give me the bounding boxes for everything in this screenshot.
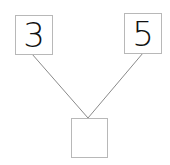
connector-left (32, 54, 88, 118)
connector-right (88, 53, 143, 118)
whole-box[interactable] (71, 118, 108, 158)
part-box-left: 3 (15, 15, 53, 55)
part-right-value: 5 (132, 17, 154, 51)
part-left-value: 3 (23, 18, 45, 52)
part-box-right: 5 (124, 13, 162, 54)
